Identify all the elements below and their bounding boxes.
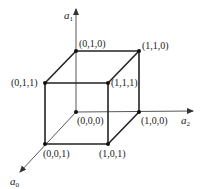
vertex-111 [106,81,110,85]
vertex-000 [74,110,78,114]
label-101: (1,0,1) [99,148,126,160]
vertex-100 [137,110,141,114]
vertex-110 [137,49,141,53]
axis-a2 [76,111,193,112]
cube-diagram: (0,1,0) (1,1,0) (0,1,1) (1,1,1) (0,0,0) … [0,0,201,189]
vertex-101 [106,142,110,146]
label-011: (0,1,1) [11,77,38,89]
vertex-011 [43,81,47,85]
label-111: (1,1,1) [111,77,138,89]
label-100: (1,0,0) [141,115,168,127]
label-000: (0,0,0) [77,115,104,127]
vertex-010 [74,49,78,53]
label-110: (1,1,0) [142,40,169,52]
axis-a0 [20,112,76,172]
axis-label-a2: a2 [181,114,191,128]
label-010: (0,1,0) [79,38,106,50]
axis-label-a1: a1 [64,9,74,23]
label-001: (0,0,1) [43,148,70,160]
axis-label-a0: a0 [10,175,20,189]
vertex-001 [43,142,47,146]
